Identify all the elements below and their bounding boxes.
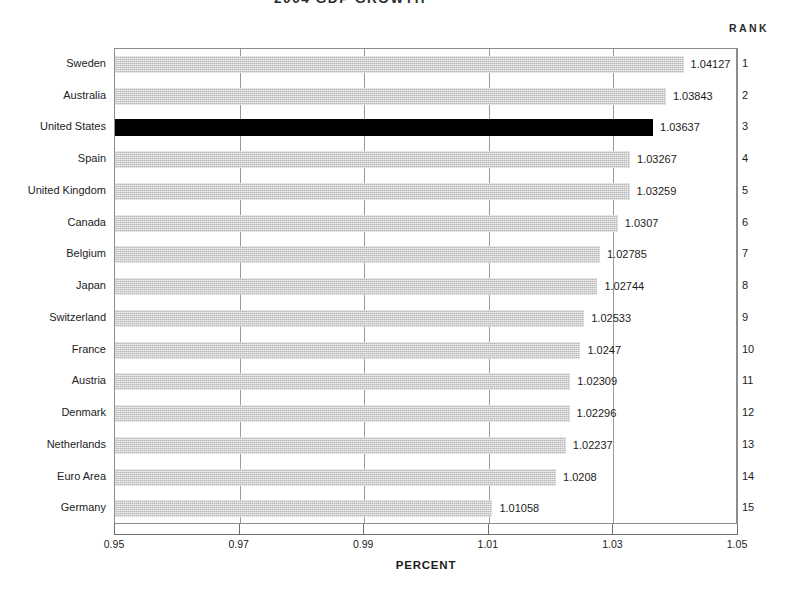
bar[interactable] xyxy=(115,500,492,517)
category-label: United States xyxy=(0,120,106,132)
bar-value-label: 1.0247 xyxy=(587,344,621,356)
table-row: 1.02296 xyxy=(115,398,736,430)
rank-value: 1 xyxy=(742,57,768,69)
x-axis-tick xyxy=(239,524,240,534)
bar-value-label: 1.03267 xyxy=(637,153,677,165)
bar-value-label: 1.04127 xyxy=(691,58,731,70)
category-label: Canada xyxy=(0,216,106,228)
rank-value: 15 xyxy=(742,501,768,513)
category-label: France xyxy=(0,343,106,355)
x-axis-tick-label: 1.03 xyxy=(582,538,642,550)
x-axis-tick-label: 1.01 xyxy=(458,538,518,550)
plot-area: 1.041271.038431.036371.032671.032591.030… xyxy=(114,48,737,524)
category-label: Spain xyxy=(0,152,106,164)
bar-value-label: 1.02785 xyxy=(607,248,647,260)
bar-value-label: 1.02744 xyxy=(604,280,644,292)
bar[interactable] xyxy=(115,56,684,73)
rank-value: 13 xyxy=(742,438,768,450)
x-axis-tick-label: 0.95 xyxy=(84,538,144,550)
rank-value: 10 xyxy=(742,343,768,355)
bar-value-label: 1.01058 xyxy=(499,502,539,514)
x-axis-tick-label: 0.97 xyxy=(209,538,269,550)
table-row: 1.02785 xyxy=(115,239,736,271)
table-row: 1.03267 xyxy=(115,144,736,176)
x-axis-tick xyxy=(488,524,489,534)
bar-value-label: 1.02533 xyxy=(591,312,631,324)
rank-value: 5 xyxy=(742,184,768,196)
table-row: 1.02744 xyxy=(115,271,736,303)
rank-column-header: RANK xyxy=(714,22,784,34)
bar[interactable] xyxy=(115,469,556,486)
category-label: Australia xyxy=(0,89,106,101)
table-row: 1.01058 xyxy=(115,493,736,525)
category-label: Germany xyxy=(0,501,106,513)
chart-title: 2004 GDP GROWTH xyxy=(0,0,700,6)
table-row: 1.02309 xyxy=(115,366,736,398)
table-row: 1.03637 xyxy=(115,112,736,144)
bar[interactable] xyxy=(115,215,618,232)
bar-value-label: 1.02237 xyxy=(573,439,613,451)
bar-value-label: 1.02296 xyxy=(577,407,617,419)
rank-value: 2 xyxy=(742,89,768,101)
category-label: Euro Area xyxy=(0,470,106,482)
bar-value-label: 1.03637 xyxy=(660,121,700,133)
x-axis-tick-label: 1.05 xyxy=(707,538,767,550)
category-label: Netherlands xyxy=(0,438,106,450)
x-axis-line xyxy=(114,534,738,535)
bar-value-label: 1.0208 xyxy=(563,471,597,483)
rank-value: 4 xyxy=(742,152,768,164)
table-row: 1.04127 xyxy=(115,49,736,81)
rank-value: 7 xyxy=(742,247,768,259)
bar[interactable] xyxy=(115,119,653,136)
x-axis-title: PERCENT xyxy=(114,559,738,571)
x-axis-tick xyxy=(612,524,613,534)
category-label: Sweden xyxy=(0,57,106,69)
x-axis-tick-label: 0.99 xyxy=(333,538,393,550)
rank-value: 9 xyxy=(742,311,768,323)
rank-value: 3 xyxy=(742,120,768,132)
x-axis-tick xyxy=(114,524,115,534)
table-row: 1.0307 xyxy=(115,208,736,240)
rank-value: 8 xyxy=(742,279,768,291)
category-label: Switzerland xyxy=(0,311,106,323)
bar[interactable] xyxy=(115,437,566,454)
rank-value: 14 xyxy=(742,470,768,482)
table-row: 1.03843 xyxy=(115,81,736,113)
bar[interactable] xyxy=(115,405,570,422)
rank-value: 12 xyxy=(742,406,768,418)
bar[interactable] xyxy=(115,246,600,263)
table-row: 1.0247 xyxy=(115,335,736,367)
x-axis-tick xyxy=(737,524,738,534)
category-label: Denmark xyxy=(0,406,106,418)
category-label: Austria xyxy=(0,374,106,386)
bar-value-label: 1.03843 xyxy=(673,90,713,102)
bar-value-label: 1.03259 xyxy=(637,185,677,197)
bar[interactable] xyxy=(115,88,666,105)
x-axis-tick xyxy=(363,524,364,534)
bar[interactable] xyxy=(115,183,630,200)
category-label: Japan xyxy=(0,279,106,291)
category-label: Belgium xyxy=(0,247,106,259)
bar[interactable] xyxy=(115,151,630,168)
bar-value-label: 1.02309 xyxy=(577,375,617,387)
rank-value: 6 xyxy=(742,216,768,228)
category-label: United Kingdom xyxy=(0,184,106,196)
bar-value-label: 1.0307 xyxy=(625,217,659,229)
bar[interactable] xyxy=(115,278,597,295)
table-row: 1.02237 xyxy=(115,430,736,462)
bar[interactable] xyxy=(115,310,584,327)
bar[interactable] xyxy=(115,342,580,359)
table-row: 1.0208 xyxy=(115,462,736,494)
rank-column-divider xyxy=(737,48,738,524)
bar[interactable] xyxy=(115,373,570,390)
table-row: 1.03259 xyxy=(115,176,736,208)
rank-value: 11 xyxy=(742,374,768,386)
table-row: 1.02533 xyxy=(115,303,736,335)
